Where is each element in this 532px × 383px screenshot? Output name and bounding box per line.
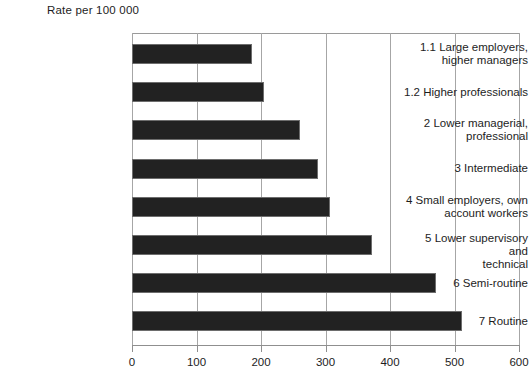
bar — [132, 159, 318, 179]
x-tick-label: 0 — [112, 356, 152, 368]
gridline-200 — [261, 33, 262, 345]
x-tick-600 — [519, 345, 520, 352]
gridline-500 — [455, 33, 456, 345]
category-label: 4 Small employers, own account workers — [404, 194, 532, 220]
category-label: 2 Lower managerial, professional — [404, 117, 532, 143]
bar — [132, 44, 252, 64]
plot-area — [132, 33, 519, 345]
x-tick-label: 200 — [241, 356, 281, 368]
x-tick-label: 500 — [435, 356, 475, 368]
x-tick-label: 300 — [306, 356, 346, 368]
axis-title: Rate per 100 000 — [47, 4, 139, 16]
bar — [132, 273, 436, 293]
category-label: 6 Semi-routine — [404, 277, 532, 290]
bar — [132, 197, 330, 217]
gridline-100 — [197, 33, 198, 345]
gridline-0 — [132, 33, 133, 345]
x-tick-200 — [261, 345, 262, 352]
x-tick-label: 400 — [370, 356, 410, 368]
category-label: 1.1 Large employers, higher managers — [404, 41, 532, 67]
gridline-300 — [326, 33, 327, 345]
category-label: 1.2 Higher professionals — [404, 86, 532, 99]
x-tick-500 — [455, 345, 456, 352]
gridline-600 — [519, 33, 520, 345]
gridline-400 — [390, 33, 391, 345]
bar-chart: Rate per 100 000 0100200300400500600 1.1… — [0, 0, 532, 383]
bar — [132, 235, 372, 255]
x-tick-0 — [132, 345, 133, 352]
x-tick-300 — [326, 345, 327, 352]
category-label: 5 Lower supervisory and technical — [404, 232, 532, 271]
x-tick-100 — [197, 345, 198, 352]
x-tick-label: 100 — [177, 356, 217, 368]
bar — [132, 120, 300, 140]
x-tick-label: 600 — [499, 356, 532, 368]
category-label: 7 Routine — [404, 315, 532, 328]
category-label: 3 Intermediate — [404, 162, 532, 175]
x-tick-400 — [390, 345, 391, 352]
bar — [132, 82, 264, 102]
